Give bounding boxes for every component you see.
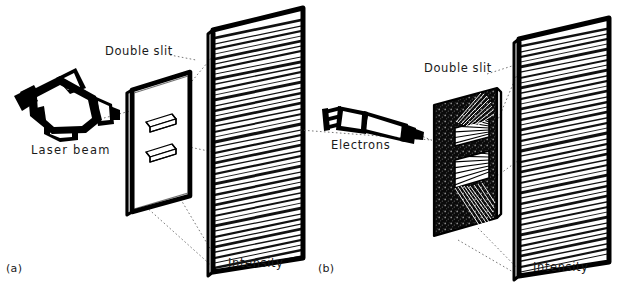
label-electrons: Electrons bbox=[331, 140, 390, 152]
intensity-screen-b bbox=[511, 18, 617, 280]
label-intensity-b: Intensity bbox=[533, 262, 588, 274]
double-slit-plate-b bbox=[434, 88, 501, 236]
intensity-screen-a bbox=[205, 8, 311, 276]
double-slit-figure: Double slit Laser beam Intensity (a) Dou… bbox=[0, 0, 617, 300]
panel-tag-b: (b) bbox=[318, 262, 334, 275]
double-slit-plate-a bbox=[127, 72, 190, 215]
label-double-slit-a: Double slit bbox=[105, 46, 173, 58]
label-laser-beam: Laser beam bbox=[31, 145, 111, 157]
laser-pointer-icon bbox=[14, 68, 120, 142]
label-intensity-a: Intensity bbox=[228, 258, 283, 270]
panel-tag-a: (a) bbox=[6, 262, 22, 275]
label-double-slit-b: Double slit bbox=[424, 63, 492, 75]
